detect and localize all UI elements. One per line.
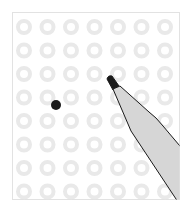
ring-icon	[65, 162, 77, 174]
ring-icon	[159, 21, 171, 33]
ring-icon	[136, 186, 148, 198]
ring-icon	[112, 162, 124, 174]
ring-icon	[65, 139, 77, 151]
ring-icon	[65, 92, 77, 104]
ring-icon	[136, 162, 148, 174]
ring-icon	[112, 45, 124, 57]
ring-icon	[159, 45, 171, 57]
ring-icon	[89, 45, 101, 57]
ring-icon	[65, 45, 77, 57]
ring-icon	[18, 186, 30, 198]
ring-icon	[89, 162, 101, 174]
ring-icon	[42, 92, 54, 104]
ring-icon	[159, 92, 171, 104]
ring-icon	[89, 21, 101, 33]
ring-icon	[159, 68, 171, 80]
ring-icon	[112, 139, 124, 151]
ring-icon	[89, 92, 101, 104]
ring-icon	[18, 92, 30, 104]
ring-icon	[65, 186, 77, 198]
ring-icon	[42, 115, 54, 127]
ring-icon	[42, 45, 54, 57]
ring-icon	[42, 186, 54, 198]
dot-icon	[51, 100, 61, 110]
ring-icon	[18, 68, 30, 80]
ring-icon	[89, 68, 101, 80]
ring-icon	[89, 186, 101, 198]
ring-icon	[89, 115, 101, 127]
ring-icon	[18, 115, 30, 127]
ring-icon	[42, 68, 54, 80]
ring-icon	[18, 162, 30, 174]
ring-icon	[65, 21, 77, 33]
ring-icon	[136, 21, 148, 33]
ring-icon	[18, 139, 30, 151]
ring-icon	[42, 21, 54, 33]
ring-icon	[42, 162, 54, 174]
ring-icon	[42, 139, 54, 151]
ring-grid	[18, 21, 171, 198]
ring-icon	[136, 68, 148, 80]
ring-icon	[112, 115, 124, 127]
ring-icon	[65, 115, 77, 127]
ring-icon	[112, 186, 124, 198]
ring-icon	[18, 21, 30, 33]
illustration-canvas	[0, 0, 191, 210]
ring-icon	[18, 45, 30, 57]
ring-icon	[136, 45, 148, 57]
ring-icon	[65, 68, 77, 80]
ring-icon	[112, 21, 124, 33]
ring-icon	[89, 139, 101, 151]
